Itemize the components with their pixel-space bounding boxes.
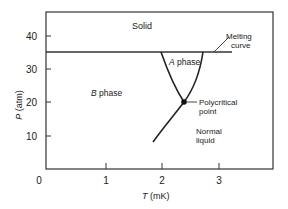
- label-point: point: [199, 107, 217, 116]
- b-normal-boundary-curve: [153, 102, 184, 142]
- x-tick-label-3: 3: [216, 175, 222, 186]
- label-normal: Normal: [196, 127, 222, 136]
- label-liquid: liquid: [196, 136, 215, 145]
- label-polycritical: Polycritical: [199, 98, 237, 107]
- phase-diagram: 40 30 20 10 0 1 2 3 T (mK) P (atm) Solid…: [0, 0, 288, 209]
- x-tick-label-1: 1: [103, 175, 109, 186]
- x-tick-label-0: 0: [36, 175, 42, 186]
- polycritical-point-marker: [181, 99, 187, 105]
- y-tick-label-40: 40: [26, 31, 38, 42]
- y-ticks: [46, 36, 51, 136]
- label-a-phase: A phase: [168, 57, 200, 67]
- y-tick-label-10: 10: [26, 131, 38, 142]
- x-axis-label: T (mK): [142, 191, 170, 201]
- y-axis-label: P (atm): [14, 90, 24, 120]
- label-curve: curve: [231, 41, 251, 50]
- label-b-phase: B phase: [91, 88, 122, 98]
- y-tick-label-30: 30: [26, 64, 38, 75]
- label-melting: Melting: [226, 32, 252, 41]
- x-ticks: [106, 163, 219, 169]
- x-tick-label-2: 2: [159, 175, 165, 186]
- y-tick-label-20: 20: [26, 97, 38, 108]
- label-solid: Solid: [132, 21, 152, 31]
